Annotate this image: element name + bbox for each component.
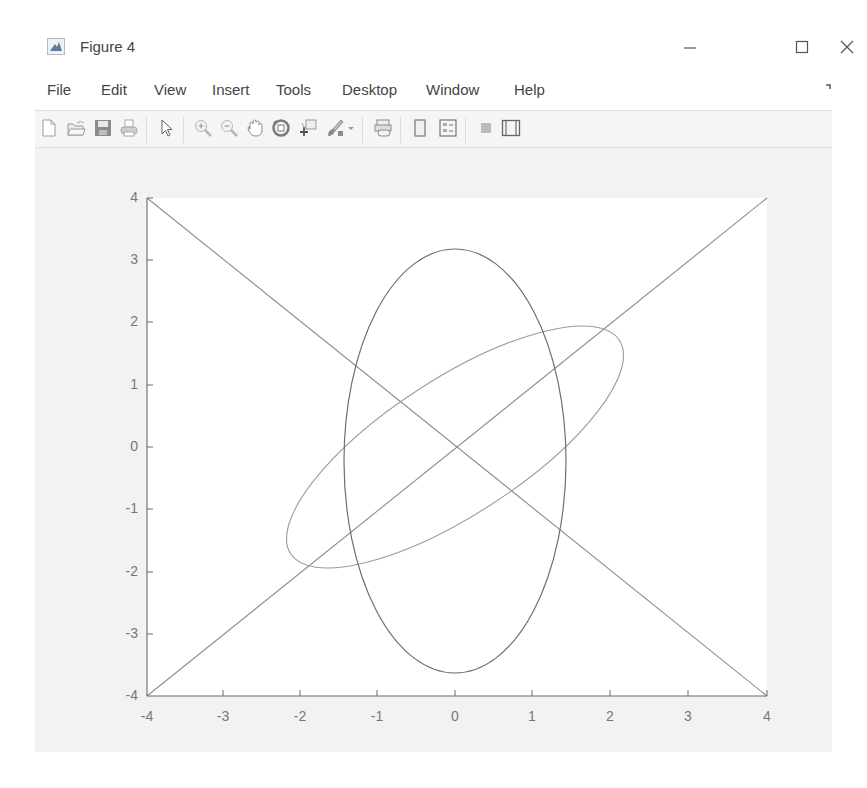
x-tick-label: -3 <box>208 708 238 724</box>
x-tick-label: 1 <box>517 708 547 724</box>
y-tick-label: 4 <box>108 189 138 205</box>
plot-overlay <box>0 0 867 788</box>
y-tick-label: -3 <box>108 625 138 641</box>
x-tick-label: 0 <box>440 708 470 724</box>
y-tick-label: -2 <box>108 563 138 579</box>
y-tick-label: 1 <box>108 376 138 392</box>
x-tick-label: -4 <box>132 708 162 724</box>
y-tick-label: 3 <box>108 251 138 267</box>
x-tick-label: 2 <box>595 708 625 724</box>
x-tick-label: -1 <box>362 708 392 724</box>
y-tick-label: 2 <box>108 313 138 329</box>
y-tick-label: -4 <box>108 687 138 703</box>
x-tick-label: -2 <box>285 708 315 724</box>
x-tick-label: 3 <box>673 708 703 724</box>
y-tick-label: 0 <box>108 438 138 454</box>
y-tick-label: -1 <box>108 500 138 516</box>
x-tick-label: 4 <box>752 708 782 724</box>
